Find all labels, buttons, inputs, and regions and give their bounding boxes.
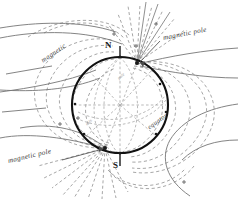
field-tick-marks [58,22,186,184]
label-south-pole: S [113,160,118,170]
radiating-lines-south [38,148,128,199]
label-north-pole: N [105,40,112,50]
radiating-lines-north-solid [137,2,170,63]
solid-isogonic-curves [0,23,238,196]
leader-pole-south [62,149,103,160]
magnetic-field-diagram [0,0,238,200]
